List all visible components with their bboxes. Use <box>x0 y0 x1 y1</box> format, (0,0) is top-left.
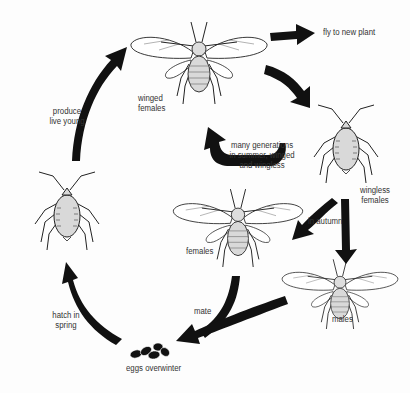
label-males: males <box>332 314 353 324</box>
label-line: produce <box>44 106 90 116</box>
arrow-autumn-males <box>335 199 357 264</box>
label-line: fly to new plant <box>323 27 375 37</box>
label-line: in summer, winged <box>225 150 299 160</box>
label-line: females <box>352 195 398 205</box>
label-many-generations: many generations in summer, winged and w… <box>225 140 299 170</box>
label-wingless-females: wingless females <box>352 185 398 205</box>
arrow-produce <box>72 47 127 161</box>
label-line: winged <box>138 93 165 103</box>
label-line: mate <box>194 306 211 316</box>
winged-female-aphid <box>131 22 267 104</box>
aphid-life-cycle-diagram: fly to new plant winged females many gen… <box>0 0 410 393</box>
label-line: hatch in <box>48 310 85 320</box>
label-line: eggs overwinter <box>126 363 181 373</box>
wingless-female-aphid <box>314 105 378 183</box>
eggs-cluster <box>129 343 171 360</box>
arrow-fly <box>270 24 315 45</box>
label-line: many generations <box>225 140 299 150</box>
label-fly-to-new-plant: fly to new plant <box>323 27 375 37</box>
arrow-hatch <box>62 262 122 345</box>
label-hatch-in-spring: hatch in spring <box>48 310 85 330</box>
label-line: in autumn <box>308 216 342 226</box>
label-line: females <box>138 103 165 113</box>
label-line: wingless <box>352 185 398 195</box>
label-line: females <box>186 246 213 256</box>
label-eggs-overwinter: eggs overwinter <box>126 363 181 373</box>
arrow-to-wingless <box>264 65 310 108</box>
label-in-autumn: in autumn <box>308 216 342 226</box>
label-produce-live-young: produce live young <box>44 106 90 126</box>
label-line: live young <box>44 116 90 126</box>
nymph-aphid <box>35 172 99 250</box>
label-females: females <box>186 246 213 256</box>
label-line: males <box>332 314 353 324</box>
diagram-canvas <box>0 0 410 393</box>
label-line: and wingless <box>225 160 299 170</box>
label-mate: mate <box>194 306 211 316</box>
label-winged-females: winged females <box>138 93 165 113</box>
label-line: spring <box>48 320 85 330</box>
